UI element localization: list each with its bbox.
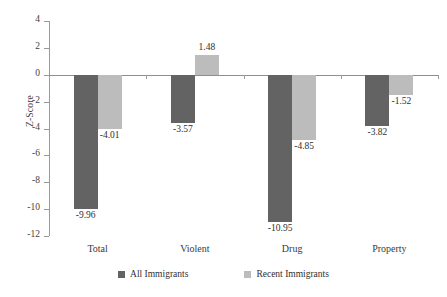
bar [171, 75, 195, 123]
bar [98, 75, 122, 129]
y-tick-label: -8 [32, 175, 40, 185]
y-tick: -8 [44, 182, 49, 183]
bar-value-label: -4.85 [282, 141, 326, 151]
y-tick-label: -2 [32, 95, 40, 105]
chart-legend: All ImmigrantsRecent Immigrants [0, 269, 447, 279]
legend-label: Recent Immigrants [256, 269, 329, 279]
y-tick-label: 0 [35, 68, 40, 78]
bar-chart: Z-Score 420-2-4-6-8-10-12 -9.96-4.01-3.5… [0, 0, 447, 297]
x-tick [341, 75, 342, 79]
bar [292, 75, 316, 140]
plot-area: 420-2-4-6-8-10-12 -9.96-4.01-3.571.48-10… [49, 21, 438, 236]
bar-value-label: -9.96 [64, 210, 108, 220]
y-axis-title: Z-Score [25, 81, 39, 141]
legend-label: All Immigrants [130, 269, 188, 279]
bar-value-label: -1.52 [379, 96, 423, 106]
x-tick [438, 75, 439, 79]
x-tick [244, 75, 245, 79]
x-tick [146, 75, 147, 79]
bar-value-label: -10.95 [258, 223, 302, 233]
y-tick: 4 [44, 21, 49, 22]
y-tick-label: 2 [35, 41, 40, 51]
legend-item[interactable]: Recent Immigrants [244, 269, 329, 279]
y-tick-label: -6 [32, 148, 40, 158]
bar-value-label: -4.01 [88, 130, 132, 140]
category-label-violent: Violent [150, 243, 240, 254]
y-tick: 2 [44, 48, 49, 49]
y-tick-label: 4 [35, 14, 40, 24]
y-tick: -12 [44, 236, 49, 237]
y-tick: -6 [44, 155, 49, 156]
bar-value-label: 1.48 [185, 42, 229, 52]
y-axis-line [49, 21, 50, 236]
legend-swatch-icon [118, 271, 125, 278]
y-tick-label: -12 [27, 229, 40, 239]
legend-swatch-icon [244, 271, 251, 278]
category-label-property: Property [344, 243, 434, 254]
y-tick-label: -10 [27, 202, 40, 212]
y-tick: -4 [44, 129, 49, 130]
bar [195, 55, 219, 75]
y-tick: -10 [44, 209, 49, 210]
category-label-drug: Drug [247, 243, 337, 254]
legend-item[interactable]: All Immigrants [118, 269, 188, 279]
bar [389, 75, 413, 95]
y-tick: -2 [44, 102, 49, 103]
y-tick-label: -4 [32, 122, 40, 132]
bar-value-label: -3.57 [161, 124, 205, 134]
category-label-total: Total [53, 243, 143, 254]
bar-value-label: -3.82 [355, 127, 399, 137]
bar [74, 75, 98, 209]
